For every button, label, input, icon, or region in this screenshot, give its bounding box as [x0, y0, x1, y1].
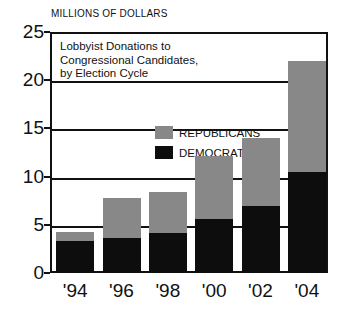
bar-segment-republicans — [288, 61, 326, 172]
x-tick-label-94: '94 — [63, 280, 88, 302]
x-tick-label-04: '04 — [294, 280, 319, 302]
bar-segment-republicans — [242, 138, 280, 205]
y-tick-label-20: 20 — [4, 69, 44, 91]
bar-group — [195, 156, 233, 273]
y-tick-label-10: 10 — [4, 166, 44, 188]
bar-segment-democrats — [195, 219, 233, 273]
bar-segment-republicans — [56, 232, 94, 242]
bar-group — [288, 61, 326, 273]
bar-segment-republicans — [195, 156, 233, 219]
bar-segment-republicans — [103, 198, 141, 238]
bar-segment-democrats — [242, 206, 280, 273]
y-tick-label-15: 15 — [4, 117, 44, 139]
bar-group — [103, 198, 141, 273]
bar-group — [56, 232, 94, 273]
y-tick-label-5: 5 — [4, 214, 44, 236]
bars-layer — [50, 32, 328, 273]
x-tick-label-02: '02 — [248, 280, 273, 302]
y-tick-label-25: 25 — [4, 21, 44, 43]
bar-segment-democrats — [103, 238, 141, 273]
x-tick-label-96: '96 — [109, 280, 134, 302]
bar-group — [149, 192, 187, 273]
bar-segment-democrats — [288, 172, 326, 273]
bar-segment-democrats — [149, 233, 187, 273]
chart-container: MILLIONS OF DOLLARS 0510152025 Lobbyist … — [0, 0, 360, 319]
x-tick-label-00: '00 — [202, 280, 227, 302]
y-tick-label-0: 0 — [4, 262, 44, 284]
bar-segment-republicans — [149, 192, 187, 232]
bar-group — [242, 138, 280, 273]
units-label: MILLIONS OF DOLLARS — [51, 8, 168, 19]
bar-segment-democrats — [56, 241, 94, 273]
x-tick-label-98: '98 — [155, 280, 180, 302]
